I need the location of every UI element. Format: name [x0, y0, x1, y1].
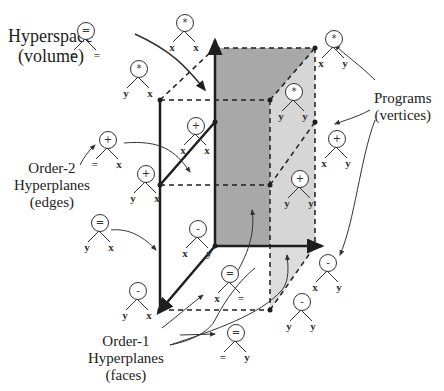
right-leaf: y	[340, 57, 350, 69]
right-leaf: x	[202, 144, 212, 156]
operator-node: =	[227, 324, 245, 342]
right-leaf: y	[343, 157, 353, 169]
right-leaf: y	[306, 197, 316, 209]
operator-node: =	[221, 265, 239, 283]
order1-label: Order-1 Hyperplanes (faces)	[88, 333, 164, 384]
left-leaf: x	[310, 281, 320, 293]
expression-tree-hyperspace-tree: ===	[68, 22, 102, 62]
left-leaf: x	[316, 57, 326, 69]
right-leaf: x	[106, 241, 116, 253]
left-leaf: y	[282, 197, 292, 209]
expression-tree-vertex-mid-back-left: +xx	[178, 117, 212, 157]
right-leaf: x	[145, 87, 155, 99]
order2-label: Order-2 Hyperplanes (edges)	[14, 160, 90, 211]
operator-node: =	[91, 214, 109, 232]
operator-node: *	[325, 30, 343, 48]
right-leaf: x	[144, 309, 154, 321]
expression-tree-face-side: ==y	[218, 324, 252, 364]
expression-tree-edge-upper: +=x	[90, 131, 124, 171]
expression-tree-vertex-mid-front-left: +yx	[128, 165, 162, 205]
right-leaf: y	[300, 110, 310, 122]
left-leaf: =	[218, 351, 228, 363]
right-leaf: x	[152, 192, 162, 204]
left-leaf: y	[128, 192, 138, 204]
expression-tree-vertex-top-back-right: *xy	[316, 30, 350, 70]
operator-node: +	[137, 165, 155, 183]
left-leaf: y	[276, 110, 286, 122]
expression-tree-vertex-top-front-left: *yx	[121, 60, 155, 100]
expression-tree-vertex-top-front-right: *yy	[276, 83, 310, 123]
right-leaf: y	[242, 351, 252, 363]
operator-node: +	[291, 170, 309, 188]
left-leaf: y	[120, 309, 130, 321]
operator-node: *	[176, 14, 194, 32]
expression-tree-vertex-mid-front-right: +yy	[282, 170, 316, 210]
operator-node: -	[189, 220, 207, 238]
left-leaf: y	[121, 87, 131, 99]
expression-tree-vertex-bottom-front-left: -yx	[120, 282, 154, 322]
left-leaf: x	[178, 144, 188, 156]
operator-node: =	[77, 22, 95, 40]
right-leaf: y	[334, 281, 344, 293]
left-leaf: x	[180, 247, 190, 259]
operator-node: *	[285, 83, 303, 101]
operator-node: -	[319, 254, 337, 272]
left-leaf: x	[212, 292, 222, 304]
right-leaf: y	[204, 247, 214, 259]
right-leaf: x	[114, 158, 124, 170]
expression-tree-face-bottom: =x=	[212, 265, 246, 305]
left-leaf: =	[90, 158, 100, 170]
right-leaf: =	[236, 292, 246, 304]
programs-label: Programs (vertices)	[374, 90, 432, 124]
operator-node: +	[328, 130, 346, 148]
expression-tree-vertex-bottom-front-right: -yy	[284, 293, 318, 333]
right-leaf: =	[92, 49, 102, 61]
left-leaf: y	[82, 241, 92, 253]
expression-tree-vertex-top-back-left: *xx	[167, 14, 201, 54]
operator-node: +	[187, 117, 205, 135]
expression-tree-vertex-mid-back-right: +xy	[319, 130, 353, 170]
left-leaf: y	[284, 320, 294, 332]
operator-node: *	[130, 60, 148, 78]
operator-node: +	[99, 131, 117, 149]
left-leaf: =	[68, 49, 78, 61]
operator-node: -	[293, 293, 311, 311]
right-leaf: x	[191, 41, 201, 53]
left-leaf: x	[167, 41, 177, 53]
right-leaf: y	[308, 320, 318, 332]
left-leaf: x	[319, 157, 329, 169]
expression-tree-vertex-bottom-back-right: -xy	[310, 254, 344, 294]
operator-node: -	[129, 282, 147, 300]
expression-tree-vertex-bottom-back-left: -xy	[180, 220, 214, 260]
expression-tree-edge-lower: =yx	[82, 214, 116, 254]
